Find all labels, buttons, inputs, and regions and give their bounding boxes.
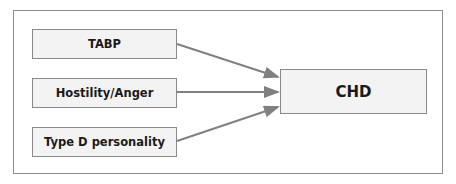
arrow-typed-chd <box>177 107 278 141</box>
node-hostility-anger: Hostility/Anger <box>32 78 177 108</box>
node-label: CHD <box>335 83 371 101</box>
node-tabp: TABP <box>32 29 177 59</box>
node-label: TABP <box>88 37 121 51</box>
arrow-tabp-chd <box>177 44 278 77</box>
node-type-d-personality: Type D personality <box>32 127 177 157</box>
node-chd: CHD <box>280 69 427 114</box>
node-label: Hostility/Anger <box>56 86 154 100</box>
node-label: Type D personality <box>44 135 165 149</box>
